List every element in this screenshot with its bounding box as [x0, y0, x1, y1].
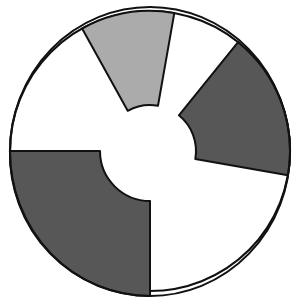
- segmented-circle-diagram: [0, 0, 304, 308]
